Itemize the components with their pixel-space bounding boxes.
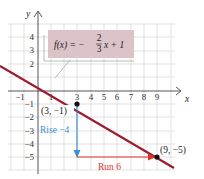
svg-text:4: 4 [30, 32, 35, 42]
x-tick-labels: −1 1 3 4 5 6 7 8 9 [15, 92, 160, 102]
label-leader-line [55, 60, 70, 78]
point-a-label: (3, −1) [41, 106, 67, 117]
svg-text:f(x) = −: f(x) = − [54, 40, 85, 51]
svg-text:−5: −5 [24, 152, 34, 162]
rise-label: Rise −4 [40, 125, 70, 135]
point-9-neg5 [154, 154, 159, 159]
point-3-neg1 [74, 101, 79, 106]
svg-text:−1: −1 [24, 99, 34, 109]
svg-text:−3: −3 [24, 126, 34, 136]
svg-text:8: 8 [142, 92, 147, 102]
point-b-label: (9, −5) [160, 145, 186, 156]
svg-text:−2: −2 [24, 112, 34, 122]
svg-text:2: 2 [97, 33, 102, 43]
y-axis-label: y [25, 9, 31, 19]
svg-text:3: 3 [75, 92, 80, 102]
svg-text:3: 3 [97, 44, 102, 54]
graph: x y −1 1 3 4 5 6 7 8 9 4 3 2 −1 −2 −3 −4… [0, 0, 204, 179]
x-axis-label: x [184, 94, 190, 104]
run-label: Run 6 [98, 162, 121, 172]
svg-text:7: 7 [129, 92, 134, 102]
svg-text:4: 4 [89, 92, 94, 102]
svg-text:3: 3 [30, 45, 35, 55]
svg-text:−4: −4 [24, 139, 34, 149]
svg-text:5: 5 [102, 92, 107, 102]
function-label: f(x) = − 2 3 x + 1 [44, 30, 134, 78]
y-tick-labels: 4 3 2 −1 −2 −3 −4 −5 [24, 32, 34, 162]
svg-text:6: 6 [115, 92, 120, 102]
svg-text:9: 9 [155, 92, 160, 102]
svg-text:x + 1: x + 1 [103, 40, 124, 50]
svg-text:2: 2 [30, 59, 35, 69]
svg-text:−1: −1 [15, 92, 25, 102]
